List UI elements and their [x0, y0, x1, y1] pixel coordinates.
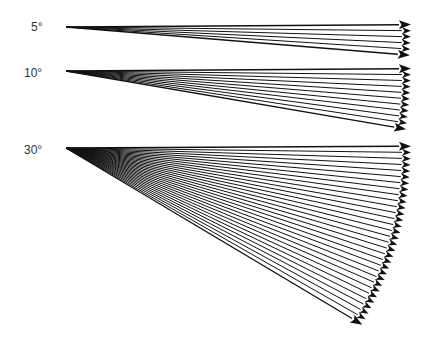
- arrowhead-icon: [375, 273, 385, 280]
- arrowhead-icon: [386, 245, 396, 252]
- arrow-shaft: [66, 148, 361, 309]
- arrowhead-icon: [401, 95, 410, 102]
- arrow-shaft: [66, 148, 392, 230]
- arrow-shaft: [66, 148, 387, 248]
- arrowhead-icon: [399, 20, 411, 29]
- arrowhead-icon: [391, 227, 401, 234]
- arrowhead-icon: [400, 173, 409, 180]
- arrow-fan-10deg: [66, 64, 411, 131]
- arrowhead-icon: [399, 112, 408, 119]
- arrowhead-icon: [399, 64, 411, 73]
- arrowhead-icon: [402, 77, 411, 84]
- arrowhead-icon: [402, 149, 411, 156]
- arrowhead-icon: [399, 142, 411, 151]
- arrow-shaft: [66, 148, 374, 282]
- arrowhead-icon: [400, 179, 409, 186]
- arrowhead-icon: [395, 209, 405, 216]
- arrowhead-icon: [373, 279, 383, 286]
- arrow-shaft: [66, 148, 358, 315]
- arrowhead-icon: [392, 221, 402, 228]
- arrow-fan-30deg: [66, 142, 411, 325]
- arrow-shaft: [66, 71, 401, 98]
- arrowhead-icon: [382, 256, 392, 263]
- arrowhead-icon: [402, 71, 411, 78]
- arrow-fans-diagram: [0, 0, 432, 343]
- arrowhead-icon: [400, 101, 409, 108]
- arrowhead-icon: [377, 268, 387, 275]
- arrowhead-icon: [396, 203, 405, 210]
- arrowhead-icon: [401, 89, 410, 96]
- arrowhead-icon: [398, 118, 407, 125]
- arrowhead-icon: [402, 33, 411, 40]
- arrowhead-icon: [401, 161, 410, 168]
- arrowhead-icon: [401, 45, 410, 52]
- arrowhead-icon: [398, 191, 407, 198]
- arrow-shaft: [66, 71, 400, 110]
- arrowhead-icon: [401, 83, 410, 90]
- arrowhead-icon: [388, 239, 398, 246]
- arrowhead-icon: [399, 185, 408, 192]
- arrowhead-icon: [389, 233, 399, 240]
- arrowhead-icon: [394, 215, 404, 222]
- arrow-shaft: [66, 25, 399, 27]
- arrowhead-icon: [399, 107, 408, 114]
- arrowhead-icon: [402, 155, 411, 162]
- arrowhead-icon: [380, 262, 390, 269]
- arrow-shaft: [66, 146, 399, 148]
- arrowhead-icon: [384, 251, 394, 258]
- arrow-shaft: [66, 148, 366, 299]
- arrowhead-icon: [397, 197, 406, 204]
- arrow-shaft: [66, 69, 399, 71]
- arrowhead-icon: [401, 39, 410, 46]
- arrow-fan-5deg: [66, 20, 411, 59]
- arrow-shaft: [66, 148, 379, 271]
- arrow-shaft: [66, 71, 399, 116]
- arrow-shaft: [66, 27, 398, 54]
- arrowhead-icon: [401, 167, 410, 174]
- arrowhead-icon: [402, 27, 411, 34]
